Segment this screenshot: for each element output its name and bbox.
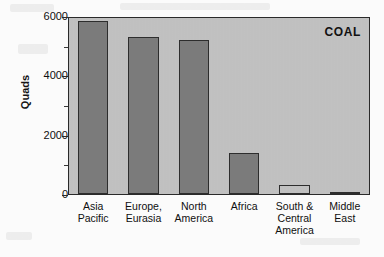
x-tick-label: MiddleEast	[314, 200, 376, 224]
plot-frame: COAL	[68, 17, 370, 195]
bar	[78, 21, 108, 194]
x-tick-label-line: East	[314, 212, 376, 224]
scan-smudge	[6, 232, 32, 240]
plot-area	[69, 18, 369, 194]
x-tick-label-line: Middle	[314, 200, 376, 212]
scan-smudge	[120, 3, 270, 10]
scan-smudge	[18, 44, 48, 54]
y-tick-mark	[62, 195, 68, 196]
bar	[128, 37, 158, 194]
chart-page: Quads 0200040006000 COAL AsiaPacificEuro…	[0, 0, 384, 257]
x-tick-label-line: America	[263, 224, 325, 236]
bar	[179, 40, 209, 194]
bar	[279, 185, 309, 194]
bar	[229, 153, 259, 194]
x-tick-label-line: America	[163, 212, 225, 224]
bar	[330, 192, 360, 194]
chart-title: COAL	[325, 25, 361, 39]
scan-smudge	[300, 238, 360, 245]
